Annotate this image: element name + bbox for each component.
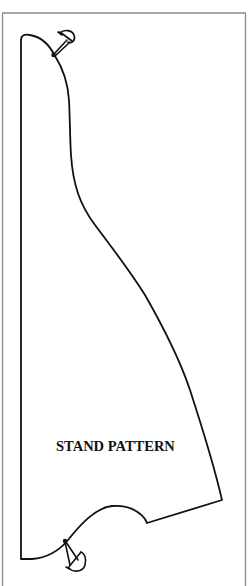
pin-top-icon [51,31,74,58]
pattern-outline [21,35,222,559]
stand-pattern-diagram [0,0,250,586]
pattern-title-label: STAND PATTERN [56,438,192,454]
pin-bottom-icon [63,539,86,571]
